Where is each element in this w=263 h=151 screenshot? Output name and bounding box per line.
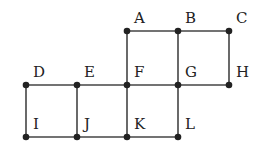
node-label-I: I [33,115,39,133]
node-label-D: D [33,63,45,81]
node-L [175,134,182,141]
node-label-J: J [82,115,90,133]
node-label-G: G [185,63,197,81]
node-label-E: E [84,63,95,81]
node-label-C: C [236,9,247,27]
node-B [175,28,182,35]
node-A [124,28,131,35]
node-label-B: B [185,9,196,27]
node-H [226,82,233,89]
node-label-F: F [134,63,144,81]
node-K [124,134,131,141]
node-label-K: K [134,115,146,133]
node-J [74,134,81,141]
grid-diagram: ABCDEFGHIJKL [0,0,263,151]
node-F [124,82,131,89]
node-D [23,82,30,89]
node-label-L: L [185,115,195,133]
node-G [175,82,182,89]
node-E [74,82,81,89]
labels: ABCDEFGHIJKL [33,9,249,133]
node-I [23,134,30,141]
node-label-H: H [236,63,249,81]
node-label-A: A [133,9,145,27]
node-C [226,28,233,35]
